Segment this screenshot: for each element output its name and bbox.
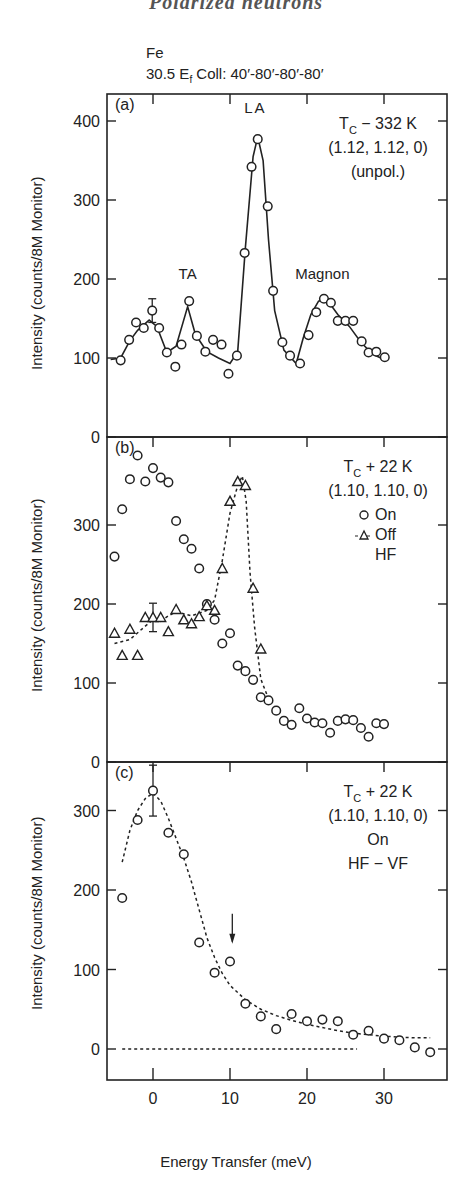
xtick-label: 10 xyxy=(221,1090,239,1107)
panel-b-circle-marker xyxy=(180,535,189,544)
xtick-label: 30 xyxy=(375,1090,393,1107)
xtick-label: 0 xyxy=(149,1090,158,1107)
panel-c-temperature: TC + 22 K xyxy=(344,783,413,804)
panel-b-circle-marker xyxy=(349,716,358,725)
panel-a-circle-marker xyxy=(155,324,164,333)
panel-b-triangle-marker xyxy=(171,605,181,614)
panel-c-circle-marker xyxy=(411,1043,420,1052)
panel-b-circle-marker xyxy=(133,451,142,460)
panel-c-circle-marker xyxy=(303,1017,312,1026)
panel-c-ytick-label: 300 xyxy=(73,803,100,820)
panel-c-circle-marker xyxy=(133,816,142,825)
panel-c-circle-marker xyxy=(164,828,173,837)
panel-a-peak-label: TA xyxy=(179,265,197,282)
panel-a-circle-marker xyxy=(372,347,381,356)
panel-a-temperature: TC − 332 K xyxy=(339,115,417,136)
panel-b-circle-marker xyxy=(226,629,235,638)
panel-b-circle-marker xyxy=(264,696,273,705)
panel-a-circle-marker xyxy=(233,351,242,360)
panel-b-circle-marker xyxy=(249,676,258,685)
panel-c-ytick-label: 200 xyxy=(73,882,100,899)
panel-c-label: (c) xyxy=(115,764,134,781)
panel-a-circle-marker xyxy=(304,331,313,340)
panel-a-circle-marker xyxy=(269,287,278,296)
panel-a-circle-marker xyxy=(278,338,287,347)
panel-b-triangle-marker xyxy=(125,624,135,633)
panel-b-circle-marker xyxy=(218,639,227,648)
panel-b-triangle-marker xyxy=(179,615,189,624)
panel-a-circle-marker xyxy=(125,336,134,345)
panel-a-circle-marker xyxy=(286,351,295,360)
arrow-head-icon xyxy=(229,934,235,944)
panel-a-circle-marker xyxy=(177,340,186,349)
panel-b-circle-marker xyxy=(272,706,281,715)
panel-b-ytick-label: 0 xyxy=(91,754,100,771)
panel-c-circle-marker xyxy=(364,1026,373,1035)
panel-a-circle-marker xyxy=(185,297,194,306)
panel-a-circle-marker xyxy=(327,298,336,307)
panel-c-circle-marker xyxy=(257,1012,266,1021)
panel-c-ytick-label: 0 xyxy=(91,1041,100,1058)
legend-label-off: Off xyxy=(375,526,397,543)
panel-b-circle-marker xyxy=(357,724,366,733)
panel-a-circle-marker xyxy=(240,249,249,258)
panel-a-peak-label: LA xyxy=(244,99,266,116)
panel-a-peak-label: Magnon xyxy=(295,265,349,282)
panel-b-circle-marker xyxy=(118,505,127,514)
panel-b-label: (b) xyxy=(115,439,135,456)
panel-a-note: (unpol.) xyxy=(351,163,405,180)
panel-c-circle-marker xyxy=(180,850,189,859)
panel-b-circle-marker xyxy=(380,720,389,729)
panel-a-ytick-label: 0 xyxy=(91,429,100,446)
panel-b-circle-marker xyxy=(233,661,242,670)
panel-a-circle-marker xyxy=(163,348,172,357)
panel-b-fit-line xyxy=(115,476,269,699)
panel-a-circle-marker xyxy=(193,332,202,341)
panel-b-ytick-label: 200 xyxy=(73,596,100,613)
panel-b-triangle-marker xyxy=(217,563,227,572)
panel-b-circle-marker xyxy=(287,721,296,730)
panel-c-ytick-label: 100 xyxy=(73,962,100,979)
panel-c-circle-marker xyxy=(287,1010,296,1019)
panel-b-ytick-label: 100 xyxy=(73,675,100,692)
panel-a-circle-marker xyxy=(349,317,358,326)
panel-b-circle-marker xyxy=(326,728,335,737)
panel-c-circle-marker xyxy=(195,938,204,947)
panel-b-circle-marker xyxy=(195,564,204,573)
panel-a-ytick-label: 200 xyxy=(73,271,100,288)
panel-a-circle-marker xyxy=(171,362,180,371)
panel-b-circle-marker xyxy=(149,464,158,473)
panel-c-circle-marker xyxy=(349,1030,358,1039)
panel-a-circle-marker xyxy=(296,359,305,368)
panel-a-circle-marker xyxy=(132,318,141,327)
panel-b-circle-marker xyxy=(141,477,150,486)
panel-a-circle-marker xyxy=(148,306,157,315)
panel-c-circle-marker xyxy=(241,999,250,1008)
panel-c-circle-marker xyxy=(226,957,235,966)
panel-b-ytick-label: 300 xyxy=(73,517,100,534)
panel-a-circle-marker xyxy=(253,135,262,144)
panel-c-note: On xyxy=(367,831,388,848)
panel-b-triangle-marker xyxy=(156,612,166,621)
panel-b-circle-marker xyxy=(164,478,173,487)
panel-b-triangle-marker xyxy=(117,650,127,659)
panel-b-circle-marker xyxy=(210,616,219,625)
panel-c-circle-marker xyxy=(149,786,158,795)
panel-a-ytick-label: 400 xyxy=(73,113,100,130)
panel-b-circle-marker xyxy=(364,732,373,741)
panel-b-triangle-marker xyxy=(248,583,258,592)
panel-a-circle-marker xyxy=(380,353,389,362)
panel-b-circle-marker xyxy=(295,704,304,713)
panel-c-circle-marker xyxy=(426,1048,435,1057)
panel-b-circle-marker xyxy=(172,517,181,526)
panel-b-circle-marker xyxy=(241,667,250,676)
panel-c-q-vector: (1.10, 1.10, 0) xyxy=(328,807,428,824)
panel-a-circle-marker xyxy=(217,340,226,349)
panel-a-circle-marker xyxy=(201,347,210,356)
panel-b-temperature: TC + 22 K xyxy=(344,458,413,479)
legend-label-hf: HF xyxy=(375,546,397,563)
panel-b-circle-marker xyxy=(126,475,135,484)
panel-a-circle-marker xyxy=(263,202,272,211)
panel-b-circle-marker xyxy=(318,719,327,728)
panel-c-circle-marker xyxy=(395,1036,404,1045)
